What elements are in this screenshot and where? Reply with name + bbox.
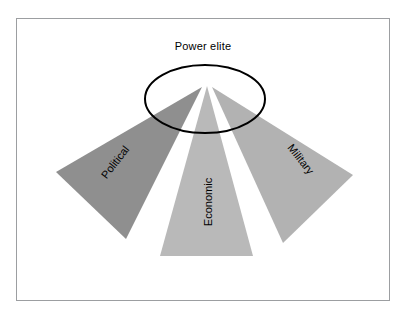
power-elite-title: Power elite: [0, 40, 406, 52]
figure-root: Power elite Political Economic Military: [0, 0, 406, 316]
economic-wedge-label: Economic: [202, 169, 214, 235]
diagram-frame: [16, 18, 390, 301]
